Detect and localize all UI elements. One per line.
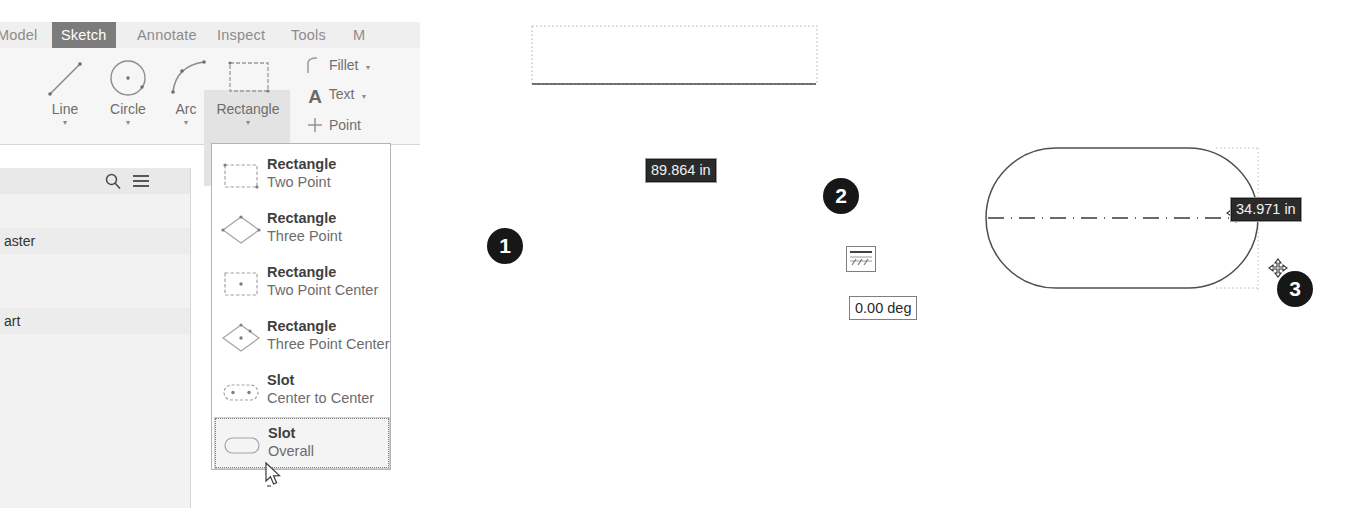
chevron-down-icon[interactable]: ▾ [366,63,370,72]
menu-item-subtitle: Three Point [267,228,342,244]
slot-width-dimension[interactable]: 34.971 in [1231,198,1301,221]
tab-manage[interactable]: M [344,22,374,48]
mouse-pointer-cursor [264,462,286,490]
point-command-label: Point [329,117,361,133]
menu-item-subtitle: Overall [268,443,314,459]
fillet-icon [305,56,325,74]
model-browser-panel: aster art [0,168,191,508]
ribbon-area: Model Sketch Annotate Inspect Tools M Li… [0,0,420,145]
chevron-down-icon[interactable]: ▾ [362,92,366,101]
circle-command[interactable]: Circle ▾ [96,54,160,127]
slot-length-dimension[interactable]: 89.864 in [646,159,716,182]
menu-item-title: Rectangle [267,156,336,172]
rectangle-command[interactable]: Rectangle ▾ [205,54,291,127]
step-marker-3: 3 [1277,271,1313,307]
circle-icon [96,54,160,102]
menu-item-subtitle: Two Point [267,174,331,190]
menu-item-rectangle-two-point-center[interactable]: Rectangle Two Point Center [215,258,389,310]
fillet-command[interactable]: Fillet ▾ [305,56,370,74]
chevron-down-icon[interactable]: ▾ [205,118,291,127]
slot-center-to-center-icon [219,375,263,409]
point-command[interactable]: Point [305,116,361,134]
tab-inspect[interactable]: Inspect [208,22,274,48]
rectangle-two-point-center-icon [219,267,263,301]
sketch-canvas[interactable]: 89.864 in 1 2 0.00 deg [420,0,1360,510]
menu-item-title: Rectangle [267,264,336,280]
angle-input-field[interactable]: 0.00 deg [849,296,917,320]
menu-item-title: Slot [267,372,294,388]
chevron-down-icon[interactable]: ▾ [34,118,96,127]
step-marker-1: 1 [487,228,523,264]
menu-item-rectangle-two-point[interactable]: Rectangle Two Point [215,150,389,202]
slot-overall-preview [980,140,1320,310]
menu-item-title: Slot [268,425,295,441]
ribbon-panel-sketch: Line ▾ Circle ▾ [0,48,420,145]
rectangle-command-label: Rectangle [205,102,291,117]
menu-item-subtitle: Center to Center [267,390,374,406]
text-a-icon: A [305,88,325,106]
menu-item-rectangle-three-point[interactable]: Rectangle Three Point [215,204,389,256]
ribbon-tab-strip: Model Sketch Annotate Inspect Tools M [0,22,420,49]
line-command[interactable]: Line ▾ [34,54,96,127]
rectangle-icon [205,54,291,102]
tab-sketch[interactable]: Sketch [52,22,116,48]
menu-item-title: Rectangle [267,318,336,334]
tab-tools[interactable]: Tools [282,22,335,48]
chevron-down-icon[interactable]: ▾ [96,118,160,127]
line-command-label: Line [34,102,96,117]
browser-row-master[interactable]: aster [0,228,190,254]
circle-command-label: Circle [96,102,160,117]
dimension-settings-icon[interactable] [846,246,876,272]
sketch-line-segment [420,0,920,260]
menu-item-subtitle: Three Point Center [267,336,390,352]
cad-application-window: Model Sketch Annotate Inspect Tools M Li… [0,0,1360,510]
hamburger-menu-icon[interactable] [132,172,150,190]
rectangle-three-point-icon [219,213,263,247]
menu-item-rectangle-three-point-center[interactable]: Rectangle Three Point Center [215,312,389,364]
text-command[interactable]: A Text ▾ [305,86,366,106]
fillet-command-label: Fillet [329,57,359,73]
browser-row-part[interactable]: art [0,308,190,334]
rectangle-three-point-center-icon [219,321,263,355]
menu-item-slot-overall[interactable]: Slot Overall [215,418,389,468]
menu-item-title: Rectangle [267,210,336,226]
text-command-label: Text [329,86,355,102]
tab-annotate[interactable]: Annotate [128,22,206,48]
menu-item-subtitle: Two Point Center [267,282,378,298]
step-marker-2: 2 [823,178,859,214]
slot-overall-icon [220,428,264,462]
tab-model[interactable]: Model [0,22,47,48]
search-icon[interactable] [104,172,122,190]
point-icon [305,116,325,134]
browser-toolbar [0,168,190,194]
line-icon [34,54,96,102]
rectangle-two-point-icon [219,159,263,193]
menu-item-slot-center-to-center[interactable]: Slot Center to Center [215,366,389,418]
rectangle-slot-flyout-menu: Rectangle Two Point Rectangle Three Poin… [211,143,391,470]
